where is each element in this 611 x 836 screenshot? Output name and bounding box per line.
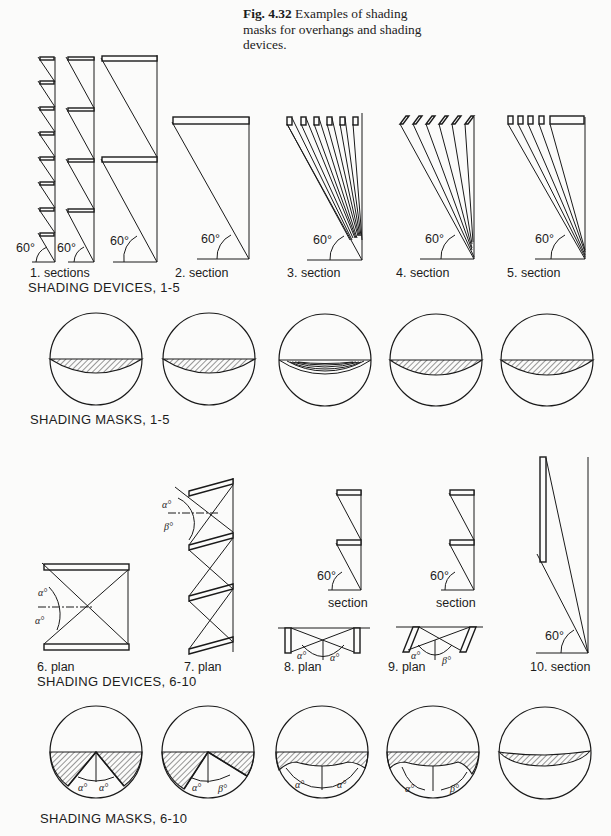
- device-8-section: 60°: [317, 490, 361, 590]
- svg-text:60°: 60°: [313, 233, 332, 247]
- device-8-section-label: section: [328, 596, 368, 610]
- mask-2: [163, 313, 255, 405]
- device-9-section: 60°: [430, 490, 474, 590]
- device-6-plan: α° α°: [35, 563, 129, 650]
- group-title-masks-1-5: SHADING MASKS, 1-5: [30, 412, 170, 427]
- mask-5: [501, 314, 593, 406]
- masks-1-5: [50, 313, 593, 406]
- mask-7: α° β°: [162, 706, 254, 798]
- device-5-section: 60°: [508, 116, 585, 259]
- group-title-masks-6-10: SHADING MASKS, 6-10: [40, 811, 187, 826]
- svg-text:60°: 60°: [201, 232, 220, 246]
- device-5-label: 5. section: [507, 266, 561, 280]
- device-8-label: 8. plan: [284, 660, 322, 674]
- mask-1: [50, 313, 142, 405]
- svg-text:β°: β°: [163, 521, 173, 532]
- svg-text:60°: 60°: [110, 234, 129, 248]
- device-10-label: 10. section: [530, 660, 590, 674]
- mask-10: [499, 707, 591, 799]
- svg-text:α°: α°: [192, 782, 201, 793]
- device-2-label: 2. section: [175, 266, 229, 280]
- svg-text:60°: 60°: [425, 232, 444, 246]
- svg-text:60°: 60°: [430, 569, 449, 583]
- angle-label: 60°: [16, 241, 35, 255]
- svg-text:α°: α°: [78, 782, 87, 793]
- device-9-label: 9. plan: [388, 660, 426, 674]
- device-4-label: 4. section: [396, 266, 450, 280]
- group-title-devices-1-5: SHADING DEVICES, 1-5: [28, 280, 180, 295]
- mask-9: α° β°: [387, 706, 479, 798]
- device-8-plan: α° α°: [278, 628, 370, 663]
- device-3-label: 3. section: [287, 266, 341, 280]
- svg-text:α°: α°: [337, 779, 346, 790]
- device-2-section: 60°: [172, 117, 249, 259]
- mask-3: [279, 314, 371, 406]
- device-1-sections: 60° 60° 60°: [16, 55, 157, 262]
- svg-text:α°: α°: [35, 615, 44, 626]
- device-6-label: 6. plan: [37, 660, 75, 674]
- svg-text:α°: α°: [99, 782, 108, 793]
- svg-text:60°: 60°: [317, 569, 336, 583]
- svg-text:α°: α°: [405, 783, 414, 794]
- device-3-section: 60°: [287, 113, 362, 260]
- mask-8: α° α°: [276, 706, 368, 798]
- mask-4: [390, 314, 482, 406]
- device-10-section: 60°: [536, 457, 588, 653]
- device-7-plan: α° β°: [162, 478, 233, 654]
- svg-text:α°: α°: [38, 587, 47, 598]
- svg-text:α°: α°: [162, 499, 171, 510]
- mask-6: α° α°: [50, 706, 142, 798]
- device-7-label: 7. plan: [184, 660, 222, 674]
- svg-text:α°: α°: [295, 779, 304, 790]
- svg-text:60°: 60°: [545, 629, 564, 643]
- svg-text:α°: α°: [330, 652, 339, 663]
- svg-text:60°: 60°: [535, 232, 554, 246]
- svg-text:β°: β°: [217, 783, 227, 794]
- svg-text:60°: 60°: [57, 241, 76, 255]
- device-9-section-label: section: [436, 596, 476, 610]
- device-1-label: 1. sections: [30, 266, 90, 280]
- svg-text:β°: β°: [441, 655, 451, 666]
- device-4-section: 60°: [400, 116, 474, 259]
- masks-6-10: α° α° α° β° α° α° α°: [50, 706, 591, 799]
- group-title-devices-6-10: SHADING DEVICES, 6-10: [37, 674, 196, 689]
- svg-text:β°: β°: [449, 783, 459, 794]
